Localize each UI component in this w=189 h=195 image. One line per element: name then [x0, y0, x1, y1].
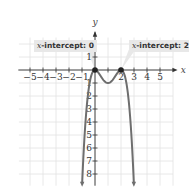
x-tick-label: 3: [131, 72, 137, 82]
x-intercept-2-callout: x-intercept: 2: [129, 40, 189, 52]
grid-lines: [19, 38, 173, 186]
x-tick-label: −3: [49, 72, 63, 82]
y-tick-label: 1: [86, 52, 92, 62]
polynomial-graph: xy −5−4−3−2−12345112345678: [0, 0, 189, 195]
y-axis-label: y: [92, 17, 99, 27]
x-intercept-0-callout: x-intercept: 0: [34, 40, 97, 52]
x-tick-label: −2: [62, 72, 75, 82]
curve-left-arrow-icon: [80, 182, 84, 187]
x-axis-arrow-icon: [172, 68, 177, 72]
x-tick-label: 5: [157, 72, 163, 82]
callout-leader-lines: [87, 50, 135, 70]
callout-text: -intercept: 2: [136, 41, 189, 50]
y-tick-label: 5: [86, 130, 92, 140]
y-tick-label: 6: [86, 143, 92, 153]
intercept-point: [118, 67, 124, 73]
curve-right-arrow-icon: [132, 182, 136, 187]
x-tick-label: 4: [144, 72, 150, 82]
intercept-point: [92, 67, 98, 73]
y-tick-label: 8: [86, 169, 92, 179]
callout-text: -intercept: 0: [41, 41, 94, 50]
y-tick-label: 7: [86, 156, 92, 166]
x-tick-label: −4: [36, 72, 50, 82]
x-tick-label: −5: [23, 72, 37, 82]
y-tick-label: 4: [86, 117, 92, 127]
y-axis-arrow-icon: [93, 31, 97, 37]
x-axis-label: x: [181, 65, 186, 75]
callout-1-pointer: [121, 50, 135, 70]
